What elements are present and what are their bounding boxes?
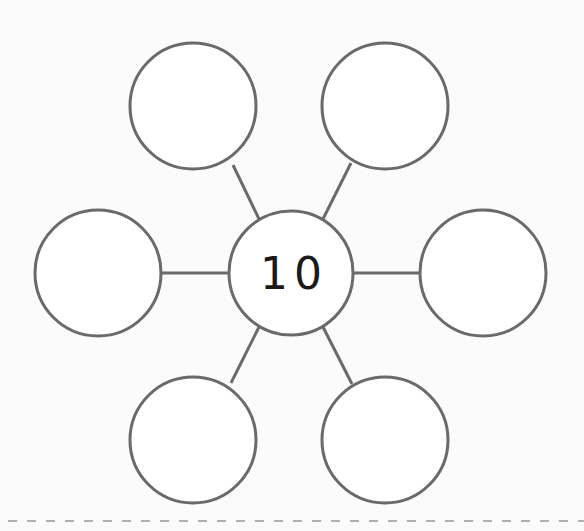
- spoke-top-right: [323, 163, 351, 219]
- node-right[interactable]: [420, 210, 546, 336]
- node-bottom-left[interactable]: [130, 377, 256, 503]
- node-bottom-right[interactable]: [322, 377, 448, 503]
- spoke-bottom-right: [323, 327, 352, 384]
- center-number: 10: [260, 248, 328, 299]
- spoke-bottom-left: [231, 327, 259, 383]
- node-left[interactable]: [35, 210, 161, 336]
- node-top-right[interactable]: [322, 43, 448, 169]
- center-node-group: 10: [229, 211, 353, 335]
- number-web-diagram: 10: [0, 0, 584, 531]
- node-top-left[interactable]: [130, 43, 256, 169]
- spoke-top-left: [233, 165, 259, 219]
